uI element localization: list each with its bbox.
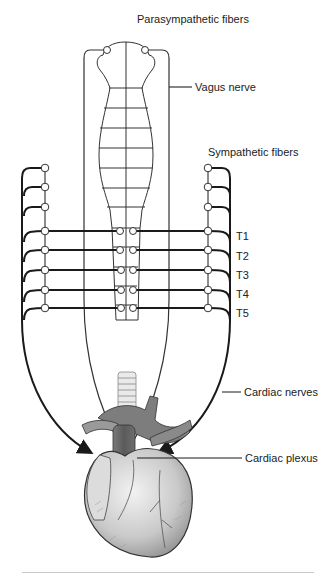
- label-cardiac-plexus: Cardiac plexus: [245, 453, 318, 464]
- label-parasympathetic-fibers: Parasympathetic fibers: [137, 14, 249, 25]
- left-sympathetic-fibers: [22, 168, 120, 452]
- label-vagus-nerve: Vagus nerve: [195, 82, 256, 93]
- label-t5: T5: [236, 308, 249, 319]
- label-t1: T1: [236, 231, 249, 242]
- autonomic-heart-diagram: Parasympathetic fibers Vagus nerve Sympa…: [0, 0, 333, 581]
- diagram-svg: [0, 0, 333, 581]
- label-t3: T3: [236, 270, 249, 281]
- label-t4: T4: [236, 289, 249, 300]
- label-t2: T2: [236, 251, 249, 262]
- bottom-divider: [22, 572, 314, 573]
- label-sympathetic-fibers: Sympathetic fibers: [208, 147, 298, 158]
- spinal-cord: [97, 42, 155, 320]
- label-cardiac-nerves: Cardiac nerves: [244, 387, 318, 398]
- heart-illustration: [82, 372, 192, 557]
